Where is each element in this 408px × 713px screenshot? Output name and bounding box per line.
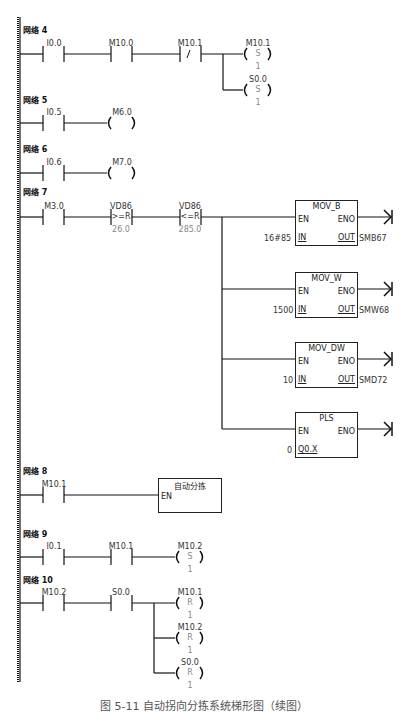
coil-label: M10.2	[178, 543, 203, 551]
box-title: 自动分拣	[159, 480, 221, 491]
box-en: EN	[298, 427, 309, 436]
coil-op: R	[187, 669, 193, 677]
compare-label: VD86	[179, 203, 201, 211]
box-title: PLS	[296, 414, 357, 423]
box-out-value: SMW68	[359, 307, 389, 315]
box-title: MOV_B	[296, 202, 357, 211]
box-in: IN	[298, 233, 306, 242]
box-title: MOV_DW	[296, 344, 357, 353]
box-in-value: 1500	[273, 307, 293, 315]
coil-count: 1	[187, 647, 192, 655]
contact-label: M10.2	[42, 589, 67, 597]
box-in-value: 10	[283, 377, 293, 385]
contact-label: M10.1	[42, 481, 67, 489]
pls-box: PLS EN ENO Q0.X	[295, 412, 358, 458]
box-eno: ENO	[338, 287, 355, 296]
network-9-title: 网络 9	[23, 528, 47, 539]
box-eno: ENO	[338, 215, 355, 224]
network-6-title: 网络 6	[23, 143, 47, 154]
coil-label: M6.0	[112, 109, 132, 117]
box-out-value: SMD72	[359, 377, 387, 385]
box-out: OUT	[338, 375, 355, 384]
contact-label: M10.1	[109, 543, 134, 551]
coil-label: M10.1	[178, 589, 203, 597]
contact-label: I0.1	[46, 543, 61, 551]
coil-label: S0.0	[249, 76, 267, 84]
network-7-title: 网络 7	[23, 186, 47, 197]
network-10-title: 网络 10	[23, 574, 53, 585]
coil-label: M10.2	[178, 624, 203, 632]
contact-label: I0.6	[46, 159, 61, 167]
box-out-value: SMB67	[359, 235, 387, 243]
box-eno: ENO	[338, 427, 355, 436]
contact-label: M10.0	[109, 40, 134, 48]
mov-w-box: MOV_W EN ENO IN OUT	[295, 272, 358, 318]
compare-op: >=R	[112, 213, 131, 221]
box-en: EN	[298, 287, 309, 296]
contact-label: M3.0	[44, 203, 64, 211]
box-out: OUT	[338, 305, 355, 314]
coil-op: S	[255, 50, 260, 58]
auto-sort-subroutine-box: 自动分拣 EN	[158, 478, 222, 513]
box-en: EN	[298, 357, 309, 366]
coil-count: 1	[187, 566, 192, 574]
coil-op: S	[187, 553, 192, 561]
compare-value: 26.0	[112, 226, 130, 234]
contact-label: M10.1	[178, 40, 203, 48]
box-in: Q0.X	[298, 445, 317, 454]
contact-label: S0.0	[112, 589, 130, 597]
figure-caption: 图 5-11 自动拐向分拣系统梯形图（续图）	[100, 697, 308, 713]
coil-op: S	[255, 86, 260, 94]
coil-op: R	[187, 599, 193, 607]
box-in-value: 0	[287, 447, 292, 455]
network-8-title: 网络 8	[23, 465, 47, 476]
coil-count: 1	[255, 63, 260, 71]
box-in: IN	[298, 305, 306, 314]
network-5-title: 网络 5	[23, 94, 47, 105]
coil-label: M10.1	[246, 40, 271, 48]
box-in-value: 16#85	[264, 235, 291, 243]
box-out: OUT	[338, 233, 355, 242]
mov-b-box: MOV_B EN ENO IN OUT	[295, 200, 358, 246]
contact-label: I0.0	[46, 40, 61, 48]
network-4-title: 网络 4	[23, 24, 47, 35]
coil-count: 1	[255, 99, 260, 107]
box-in: IN	[298, 375, 306, 384]
coil-op: R	[187, 634, 193, 642]
coil-label: S0.0	[181, 659, 199, 667]
box-en: EN	[161, 492, 172, 501]
box-en: EN	[298, 215, 309, 224]
box-eno: ENO	[338, 357, 355, 366]
compare-value: 285.0	[179, 226, 202, 234]
compare-label: VD86	[110, 203, 132, 211]
coil-label: M7.0	[112, 159, 132, 167]
compare-op: <=R	[181, 213, 200, 221]
coil-count: 1	[187, 612, 192, 620]
box-title: MOV_W	[296, 274, 357, 283]
mov-dw-box: MOV_DW EN ENO IN OUT	[295, 342, 358, 388]
contact-label: I0.5	[46, 109, 61, 117]
coil-count: 1	[187, 682, 192, 690]
